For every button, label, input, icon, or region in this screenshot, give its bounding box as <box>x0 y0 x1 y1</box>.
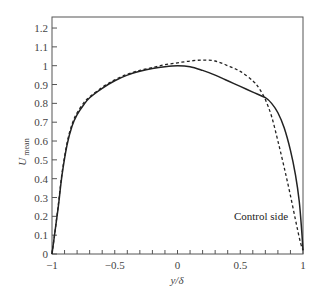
x-tick-label: 0 <box>175 259 181 271</box>
y-tick-label: 0.8 <box>34 97 48 109</box>
y-tick-label: 0.1 <box>34 229 48 241</box>
y-tick-label: 0.5 <box>34 154 48 166</box>
x-tick-label: −1 <box>46 259 58 271</box>
y-tick-label: 1 <box>43 60 49 72</box>
series-layer <box>52 60 303 254</box>
annotation-control-side: Control side <box>234 210 288 222</box>
y-axis-label-subscript: mean <box>22 138 31 155</box>
y-tick-label: 1.1 <box>34 41 48 53</box>
x-axis: −1−0.500.51 <box>46 250 306 271</box>
series-line-solid <box>52 66 303 254</box>
line-chart: 00.10.20.30.40.50.60.70.80.911.11.2 −1−0… <box>0 0 318 295</box>
x-tick-label: −0.5 <box>105 259 125 271</box>
y-axis-label-main: U <box>16 157 28 166</box>
svg-text:Umean: Umean <box>16 138 31 165</box>
x-tick-label: 0.5 <box>233 259 247 271</box>
y-axis-label: Umean <box>16 138 31 165</box>
y-tick-label: 0.7 <box>34 116 48 128</box>
y-tick-label: 0.3 <box>34 192 48 204</box>
y-tick-label: 0.6 <box>34 135 48 147</box>
y-tick-label: 1.2 <box>34 22 48 34</box>
annotation-layer: Control side <box>234 210 288 222</box>
y-axis: 00.10.20.30.40.50.60.70.80.911.11.2 <box>34 22 57 260</box>
x-axis-label: y/δ <box>169 274 184 286</box>
y-tick-label: 0.4 <box>34 173 48 185</box>
y-tick-label: 0.2 <box>34 210 48 222</box>
series-line-dashed <box>52 60 303 254</box>
x-tick-label: 1 <box>300 259 306 271</box>
y-tick-label: 0.9 <box>34 79 48 91</box>
